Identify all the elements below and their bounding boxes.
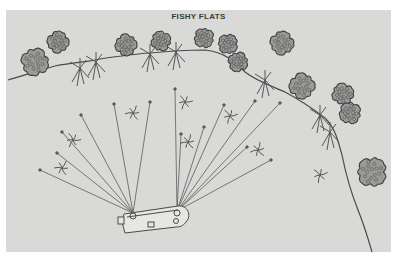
lure-point (279, 102, 282, 105)
weed-bed-icon (314, 169, 328, 183)
weed-bed-icon (179, 96, 193, 110)
tree-icon (270, 31, 294, 55)
lure-point (149, 101, 152, 104)
shoreline-trees (21, 29, 386, 187)
brush-icon (86, 52, 105, 80)
cast-line (114, 104, 133, 213)
lure-point (61, 131, 64, 134)
brush-icon (166, 42, 185, 70)
weed-bed-icon (54, 161, 68, 175)
tree-icon (21, 48, 49, 76)
lure-point (174, 88, 177, 91)
lure-point (56, 152, 59, 155)
cast-lines (39, 88, 282, 213)
weed-bed-icon (250, 142, 263, 156)
lure-point (203, 126, 206, 129)
tree-icon (47, 31, 69, 53)
cast-line (177, 101, 255, 211)
lure-point (246, 146, 249, 149)
fishy-flats-illustration (0, 0, 397, 258)
tree-icon (339, 102, 360, 123)
brush-icon (255, 70, 274, 98)
tree-icon (228, 52, 248, 72)
weed-bed-icon (180, 134, 194, 148)
cast-line (81, 115, 133, 213)
cast-line (177, 105, 224, 211)
weed-bed-icon (224, 110, 238, 124)
tree-icon (289, 73, 315, 99)
tree-icon (358, 158, 386, 187)
cast-line (133, 102, 150, 213)
lure-point (270, 159, 273, 162)
cast-line (175, 89, 177, 211)
tree-icon (332, 83, 354, 105)
shoreline (8, 50, 372, 252)
lure-point (180, 133, 183, 136)
tree-icon (115, 34, 137, 56)
lure-point (223, 104, 226, 107)
lure-point (80, 114, 83, 117)
cast-line (62, 132, 133, 213)
lure-point (254, 100, 257, 103)
tree-icon (194, 29, 213, 48)
lure-point (39, 169, 42, 172)
brush-icon (70, 58, 89, 86)
tree-icon (218, 34, 237, 53)
lure-point (113, 103, 116, 106)
weed-bed-icon (125, 106, 139, 120)
